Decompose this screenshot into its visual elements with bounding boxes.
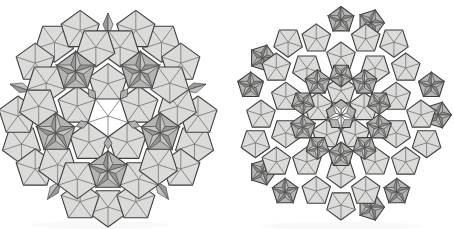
scanned-figure-page xyxy=(0,0,454,229)
left-patch-pentagon-hole xyxy=(0,10,217,229)
pentagon-tiling-diagrams xyxy=(0,0,454,229)
right-patch-star-hole xyxy=(237,6,452,229)
